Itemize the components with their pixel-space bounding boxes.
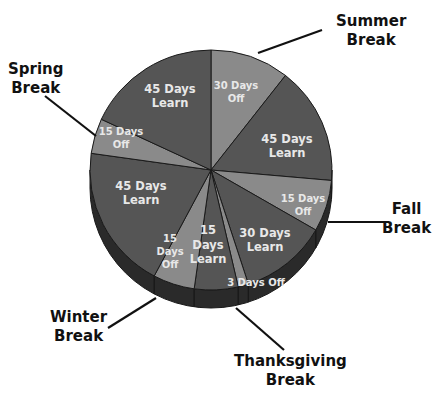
slice-label: 45 DaysLearn bbox=[115, 179, 166, 208]
callout-line bbox=[258, 30, 322, 53]
callout-summer-break: SummerBreak bbox=[336, 12, 406, 50]
callout-spring-break: SpringBreak bbox=[8, 60, 64, 98]
slice-label: 45 DaysLearn bbox=[144, 82, 195, 111]
slice-label: 45 DaysLearn bbox=[261, 132, 312, 161]
slice-label: 3 Days Off bbox=[227, 277, 286, 288]
callout-line bbox=[108, 298, 156, 328]
callout-line bbox=[236, 308, 284, 350]
callout-line bbox=[45, 96, 96, 136]
callout-thanksgiving-break: ThanksgivingBreak bbox=[234, 352, 347, 390]
slice-label: 30 DaysLearn bbox=[239, 226, 290, 255]
callout-fall-break: FallBreak bbox=[382, 200, 431, 238]
callout-winter-break: WinterBreak bbox=[50, 308, 107, 346]
